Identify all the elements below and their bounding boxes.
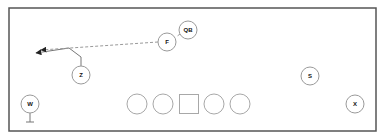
player-z[interactable]: Z — [72, 66, 90, 84]
player-qb[interactable]: QB — [179, 21, 197, 39]
player-w[interactable]: W — [21, 95, 39, 113]
player-z-label: Z — [79, 72, 83, 78]
left-guard[interactable] — [153, 94, 173, 114]
right-guard[interactable] — [204, 94, 224, 114]
player-x-label: X — [353, 101, 357, 107]
player-f-label: F — [165, 39, 169, 45]
player-qb-label: QB — [184, 27, 194, 33]
player-s[interactable]: S — [301, 67, 319, 85]
center[interactable] — [180, 95, 199, 114]
player-s-label: S — [308, 73, 312, 79]
left-tackle[interactable] — [127, 94, 147, 114]
play-diagram: QB F Z W S X — [0, 0, 384, 138]
player-f[interactable]: F — [158, 33, 176, 51]
right-tackle[interactable] — [230, 94, 250, 114]
player-w-label: W — [27, 101, 33, 107]
player-x[interactable]: X — [346, 95, 364, 113]
